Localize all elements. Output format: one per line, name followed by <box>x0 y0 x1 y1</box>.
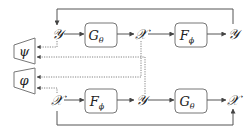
cycle-diagram: 𝒴 Gθ 𝒳 Fϕ 𝒴 ψ φ <box>0 0 251 132</box>
bottom-end-node: 𝒳 <box>227 92 243 108</box>
svg-text:ψ: ψ <box>19 44 30 59</box>
top-box-g-theta: Gθ <box>85 23 117 47</box>
top-row: 𝒴 Gθ 𝒳 Fϕ 𝒴 <box>52 23 243 47</box>
bottom-box-f-phi: Fϕ <box>85 89 117 113</box>
discriminator-phi: φ <box>14 68 35 94</box>
top-box-f-phi: Fϕ <box>175 23 207 47</box>
dotted-connections <box>37 41 145 94</box>
dotted-bottom-y-to-psi <box>37 57 145 94</box>
discriminator-psi: ψ <box>14 38 35 64</box>
top-feedback-arrow <box>57 9 233 25</box>
svg-text:φ: φ <box>19 73 29 88</box>
top-end-node: 𝒴 <box>228 26 243 42</box>
bottom-row: 𝒳 Fϕ 𝒴 Gθ 𝒳 <box>51 89 243 113</box>
bottom-box-g-theta: Gθ <box>175 89 207 113</box>
